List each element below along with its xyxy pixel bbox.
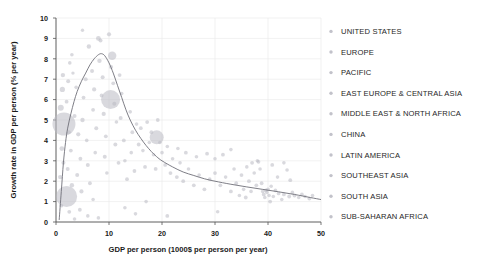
scatter-bubble — [232, 167, 236, 171]
chart-figure: 01020304050 012345678910 GDP per person … — [0, 0, 489, 273]
scatter-bubble — [205, 152, 209, 156]
scatter-bubble — [192, 183, 196, 187]
scatter-bubble — [137, 143, 141, 147]
scatter-bubble — [147, 141, 151, 145]
scatter-bubble — [107, 32, 111, 36]
scatter-bubble — [69, 149, 73, 153]
scatter-bubble — [97, 216, 101, 220]
legend-marker-icon — [329, 174, 332, 177]
scatter-bubble — [156, 118, 160, 122]
scatter-bubble — [91, 108, 95, 112]
scatter-bubble — [94, 126, 98, 130]
legend: UNITED STATESEUROPEPACIFICEAST EUROPE & … — [329, 27, 463, 221]
scatter-bubble — [101, 90, 120, 109]
scatter-bubble — [118, 73, 122, 77]
legend-marker-icon — [329, 112, 332, 115]
scatter-bubble — [229, 190, 233, 194]
scatter-bubble — [52, 113, 75, 136]
scatter-bubble — [229, 148, 233, 152]
y-tick-label: 8 — [44, 55, 48, 64]
x-tick-label: 40 — [264, 229, 272, 238]
scatter-bubble — [75, 173, 79, 177]
legend-item-label[interactable]: MIDDLE EAST & NORTH AFRICA — [341, 109, 462, 118]
scatter-bubble — [81, 29, 84, 32]
y-tick-label: 4 — [44, 136, 48, 145]
scatter-bubble — [250, 161, 254, 165]
scatter-bubble — [74, 86, 78, 90]
scatter-bubble — [73, 217, 77, 221]
scatter-bubble — [79, 189, 83, 193]
x-tick-label: 10 — [105, 229, 113, 238]
legend-marker-icon — [329, 153, 332, 156]
legend-item-label[interactable]: PACIFIC — [341, 68, 372, 77]
scatter-bubble — [123, 159, 127, 163]
scatter-bubble — [108, 52, 116, 60]
scatter-bubble — [66, 79, 70, 83]
legend-marker-icon — [329, 215, 332, 218]
scatter-bubble — [240, 173, 244, 177]
scatter-bubble — [184, 151, 188, 155]
scatter-bubble — [158, 141, 162, 145]
legend-marker-icon — [329, 133, 332, 136]
scatter-bubble — [117, 161, 121, 165]
scatter-bubble — [86, 163, 90, 167]
legend-item-label[interactable]: EAST EUROPE & CENTRAL ASIA — [341, 89, 463, 98]
scatter-bubble — [169, 171, 173, 175]
scatter-bubble — [101, 75, 105, 79]
scatter-bubble — [176, 147, 180, 151]
scatter-bubble — [91, 198, 95, 202]
tick-marks — [53, 18, 321, 225]
y-tick-labels: 012345678910 — [40, 14, 48, 227]
legend-marker-icon — [329, 30, 332, 33]
grid-lines — [56, 18, 321, 222]
scatter-bubble — [187, 167, 191, 171]
scatter-bubble — [276, 175, 280, 179]
scatter-bubble — [119, 116, 123, 120]
scatter-bubble — [111, 81, 115, 85]
legend-item-label[interactable]: EUROPE — [341, 48, 374, 57]
scatter-bubble — [297, 196, 301, 200]
scatter-bubble — [58, 105, 64, 111]
x-tick-labels: 01020304050 — [54, 229, 325, 238]
scatter-bubble — [272, 195, 276, 199]
y-axis-title: Growth rate in GDP per person (% per yea… — [9, 41, 18, 198]
legend-marker-icon — [329, 195, 332, 198]
scatter-bubble — [113, 142, 117, 146]
scatter-bubble — [249, 190, 253, 194]
legend-item-label[interactable]: LATIN AMERICA — [341, 151, 401, 160]
scatter-bubble — [122, 139, 126, 143]
scatter-bubble — [129, 151, 133, 155]
scatter-bubble — [99, 38, 103, 42]
scatter-bubble — [238, 194, 242, 198]
scatter-bubble — [112, 102, 116, 106]
legend-item-label[interactable]: CHINA — [341, 130, 366, 139]
scatter-bubble — [221, 153, 225, 157]
legend-item-label[interactable]: SOUTH ASIA — [341, 192, 389, 201]
legend-marker-icon — [329, 50, 332, 53]
scatter-plot-svg: 01020304050 012345678910 GDP per person … — [0, 0, 489, 273]
legend-marker-icon — [329, 92, 332, 95]
scatter-bubble — [92, 87, 96, 91]
legend-item-label[interactable]: SOUTHEAST ASIA — [341, 171, 409, 180]
scatter-bubble — [280, 198, 284, 202]
scatter-bubble — [70, 183, 74, 187]
scatter-bubble — [86, 214, 90, 218]
legend-item-label[interactable]: UNITED STATES — [341, 27, 402, 36]
y-tick-label: 2 — [44, 177, 48, 186]
scatter-bubble — [102, 112, 106, 116]
scatter-bubble — [78, 157, 82, 161]
y-tick-label: 0 — [44, 218, 48, 227]
y-tick-label: 3 — [44, 157, 48, 166]
x-tick-label: 30 — [211, 229, 219, 238]
scatter-bubble — [178, 161, 182, 165]
scatter-bubble — [213, 157, 217, 161]
legend-item-label[interactable]: SUB-SAHARAN AFRICA — [341, 212, 429, 221]
scatter-bubble — [59, 146, 64, 151]
scatter-bubble — [166, 145, 170, 149]
scatter-bubble — [78, 208, 82, 212]
y-tick-label: 1 — [44, 197, 48, 206]
scatter-bubble — [203, 187, 207, 191]
scatter-bubble — [311, 194, 315, 198]
scatter-bubble — [66, 167, 70, 171]
scatter-bubble — [56, 186, 77, 207]
